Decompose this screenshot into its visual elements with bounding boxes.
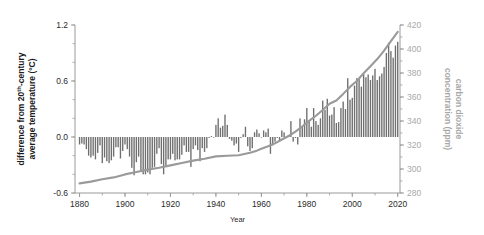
temperature-bar bbox=[370, 80, 371, 137]
temperature-bar bbox=[186, 137, 187, 152]
temperature-bar bbox=[397, 42, 398, 137]
left-axis-tick-label: 1.2 bbox=[56, 20, 68, 30]
temperature-bar bbox=[156, 137, 157, 154]
temperature-bar bbox=[215, 125, 216, 137]
climate-chart: -0.60.00.61.2 280300320340360380400420 1… bbox=[0, 0, 484, 235]
temperature-bar bbox=[122, 137, 123, 151]
temperature-bar bbox=[86, 137, 87, 149]
temperature-bar bbox=[231, 137, 232, 141]
temperature-bar bbox=[224, 115, 225, 137]
temperature-bar bbox=[208, 137, 209, 138]
temperature-bar bbox=[318, 125, 319, 137]
temperature-bar bbox=[165, 137, 166, 166]
temperature-bar bbox=[163, 137, 164, 174]
temperature-bar bbox=[293, 137, 294, 142]
temperature-bar bbox=[236, 137, 237, 144]
x-axis-title: Year bbox=[230, 215, 246, 224]
temperature-bar bbox=[304, 119, 305, 137]
temperature-bar bbox=[227, 125, 228, 137]
temperature-bar bbox=[161, 137, 162, 164]
temperature-bar bbox=[145, 137, 146, 174]
right-axis-title-line1: carbon dioxide bbox=[454, 79, 464, 140]
temperature-bar bbox=[245, 127, 246, 137]
right-axis-tick-label: 420 bbox=[407, 20, 421, 30]
temperature-bar bbox=[295, 137, 296, 138]
temperature-bar bbox=[274, 137, 275, 142]
right-axis-tick-label: 400 bbox=[407, 44, 421, 54]
temperature-bar bbox=[277, 137, 278, 138]
temperature-bar bbox=[195, 137, 196, 145]
temperature-bar bbox=[302, 127, 303, 137]
temperature-bar bbox=[99, 137, 100, 145]
temperature-bar bbox=[127, 137, 128, 149]
x-axis-tick-label: 1900 bbox=[116, 199, 135, 209]
temperature-bar bbox=[365, 77, 366, 137]
temperature-bar bbox=[188, 137, 189, 152]
temperature-bar bbox=[213, 137, 214, 138]
temperature-bar bbox=[258, 133, 259, 137]
temperature-bar bbox=[97, 137, 98, 153]
temperature-bar bbox=[352, 98, 353, 137]
right-axis-tick-label: 280 bbox=[407, 188, 421, 198]
temperature-bar bbox=[199, 137, 200, 161]
temperature-bar bbox=[124, 137, 125, 144]
temperature-bar bbox=[220, 128, 221, 137]
temperature-bar bbox=[311, 127, 312, 137]
temperature-bar bbox=[331, 115, 332, 137]
temperature-bar bbox=[263, 130, 264, 137]
temperature-bar bbox=[256, 130, 257, 137]
temperature-bar bbox=[361, 87, 362, 137]
temperature-bar bbox=[354, 86, 355, 137]
temperature-bar bbox=[172, 137, 173, 154]
x-axis-tick-label: 2020 bbox=[388, 199, 407, 209]
temperature-bar bbox=[206, 137, 207, 148]
temperature-bar bbox=[379, 76, 380, 137]
temperature-bar bbox=[154, 137, 155, 167]
x-axis-tick-label: 1920 bbox=[161, 199, 180, 209]
temperature-bar bbox=[183, 137, 184, 145]
temperature-bar bbox=[193, 137, 194, 149]
temperature-bar bbox=[108, 137, 109, 163]
temperature-bar bbox=[315, 121, 316, 137]
x-axis-tick-label: 1980 bbox=[297, 199, 316, 209]
temperature-bar bbox=[320, 118, 321, 137]
temperature-bar bbox=[115, 137, 116, 147]
temperature-bar bbox=[106, 137, 107, 161]
x-axis-tick-label: 2000 bbox=[343, 199, 362, 209]
temperature-bar bbox=[111, 137, 112, 160]
temperature-bar bbox=[174, 137, 175, 160]
temperature-bar bbox=[204, 137, 205, 152]
temperature-bar bbox=[338, 122, 339, 137]
temperature-bar bbox=[202, 137, 203, 148]
temperature-bar bbox=[254, 132, 255, 137]
temperature-bar bbox=[386, 53, 387, 137]
right-axis-tick-label: 380 bbox=[407, 68, 421, 78]
temperature-bar bbox=[233, 137, 234, 145]
temperature-bar bbox=[190, 137, 191, 167]
temperature-bar bbox=[343, 102, 344, 137]
temperature-bar bbox=[249, 137, 250, 151]
temperature-bar bbox=[393, 58, 394, 137]
temperature-bar bbox=[333, 107, 334, 137]
right-axis-tick-label: 340 bbox=[407, 116, 421, 126]
temperature-bar bbox=[345, 109, 346, 137]
temperature-bar bbox=[152, 137, 153, 168]
temperature-bar bbox=[179, 137, 180, 159]
x-axis-tick-label: 1940 bbox=[206, 199, 225, 209]
temperature-bar bbox=[197, 137, 198, 150]
temperature-bar bbox=[93, 137, 94, 156]
temperature-bar bbox=[388, 43, 389, 137]
temperature-bar bbox=[120, 137, 121, 158]
temperature-bar bbox=[90, 137, 91, 158]
right-axis-title-line2: concentration (ppm) bbox=[443, 68, 453, 150]
left-axis-tick-label: -0.6 bbox=[53, 188, 68, 198]
temperature-bar bbox=[358, 79, 359, 137]
temperature-bar bbox=[308, 120, 309, 137]
temperature-bar bbox=[265, 132, 266, 137]
left-axis-tick-label: 0.0 bbox=[56, 132, 68, 142]
temperature-bar bbox=[222, 126, 223, 137]
temperature-bar bbox=[211, 136, 212, 137]
temperature-bar bbox=[95, 137, 96, 159]
temperature-bar bbox=[377, 80, 378, 137]
temperature-bar bbox=[372, 75, 373, 137]
